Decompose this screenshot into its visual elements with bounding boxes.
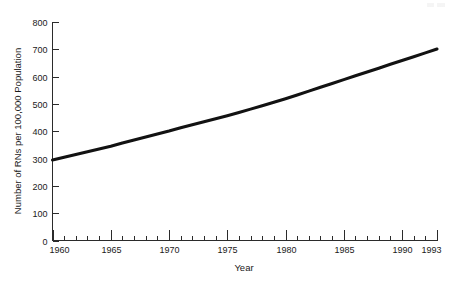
y-tick-label-0: 0 [42, 237, 47, 247]
x-axis-minor-ticks [65, 236, 426, 241]
x-tick-label-1975: 1975 [217, 245, 237, 255]
scan-artifact [427, 3, 445, 7]
x-tick-label-1990: 1990 [392, 245, 412, 255]
y-tick-label-100: 100 [32, 209, 47, 219]
y-tick-label-500: 500 [32, 100, 47, 110]
x-tick-label-1965: 1965 [101, 245, 121, 255]
x-tick-label-1960: 1960 [50, 245, 70, 255]
x-axis-title: Year [234, 262, 253, 273]
y-axis-title: Number of RNs per 100,000 Population [12, 48, 23, 214]
y-tick-label-800: 800 [32, 18, 47, 28]
y-axis-ticks [53, 23, 59, 242]
y-tick-label-400: 400 [32, 127, 47, 137]
x-tick-label-1993: 1993 [421, 245, 441, 255]
x-tick-label-1985: 1985 [334, 245, 354, 255]
line-chart: 0100200300400500600700800 19601965197019… [0, 0, 450, 283]
chart-figure: 0100200300400500600700800 19601965197019… [0, 0, 450, 283]
x-tick-label-1970: 1970 [159, 245, 179, 255]
y-tick-label-700: 700 [32, 45, 47, 55]
y-tick-label-200: 200 [32, 182, 47, 192]
y-tick-label-600: 600 [32, 73, 47, 83]
y-tick-label-300: 300 [32, 155, 47, 165]
x-axis-tick-labels: 19601965197019751980198519901993 [50, 245, 442, 255]
y-axis-tick-labels: 0100200300400500600700800 [32, 18, 47, 247]
x-tick-label-1980: 1980 [276, 245, 296, 255]
data-series-line [53, 49, 438, 160]
